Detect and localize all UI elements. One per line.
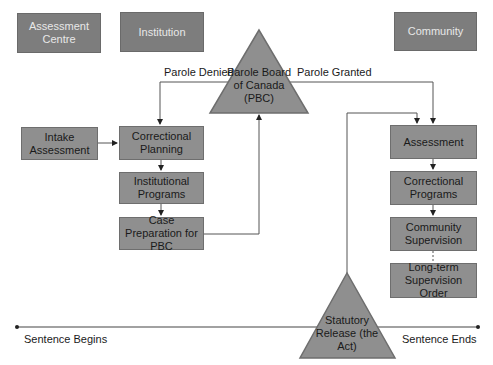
assessment-label: Assessment [404, 136, 464, 149]
correctional-planning-node: Correctional Planning [119, 126, 204, 160]
assessment-node: Assessment [390, 125, 477, 159]
sentence-flow-diagram: Assessment Centre Institution Community … [0, 0, 493, 365]
phase-institution: Institution [120, 12, 204, 52]
correctional-programs-label: Correctional Programs [399, 175, 469, 201]
phase-community-label: Community [408, 25, 464, 38]
pbc-label: Parole Board of Canada (PBC) [227, 66, 291, 104]
correctional-planning-label: Correctional Planning [127, 130, 197, 156]
phase-assessment-centre: Assessment Centre [17, 13, 101, 53]
community-supervision-label: Community Supervision [399, 221, 469, 247]
parole-denied-label: Parole Denied [164, 66, 234, 78]
statutory-release-node: Statutory Release (the Act) [315, 314, 379, 353]
statutory-release-label: Statutory Release (the Act) [316, 314, 378, 352]
institutional-programs-label: Institutional Programs [127, 175, 197, 201]
correctional-programs-node: Correctional Programs [390, 171, 477, 205]
sentence-ends-label: Sentence Ends [402, 333, 477, 345]
intake-assessment-label: Intake Assessment [27, 131, 92, 157]
phase-institution-label: Institution [138, 26, 185, 39]
phase-community: Community [394, 12, 477, 51]
community-supervision-node: Community Supervision [390, 217, 477, 251]
ltso-node: Long-term Supervision Order [390, 263, 477, 298]
sentence-begins-label: Sentence Begins [24, 333, 107, 345]
pbc-node: Parole Board of Canada (PBC) [224, 66, 294, 105]
ltso-label: Long-term Supervision Order [391, 261, 476, 300]
institutional-programs-node: Institutional Programs [119, 172, 204, 204]
intake-assessment-node: Intake Assessment [21, 127, 98, 160]
case-preparation-node: Case Preparation for PBC [119, 217, 204, 250]
case-preparation-label: Case Preparation for PBC [120, 214, 203, 253]
phase-assessment-centre-label: Assessment Centre [24, 20, 94, 46]
parole-granted-label: Parole Granted [297, 66, 372, 78]
